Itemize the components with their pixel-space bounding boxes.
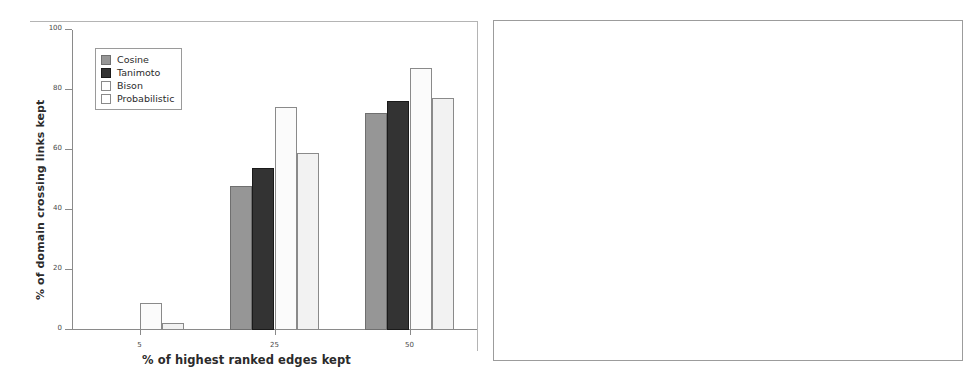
- legend-label-tanimoto: Tanimoto: [117, 67, 160, 79]
- x-tick-label-25: 25: [270, 341, 279, 349]
- y-axis-title-left: % of domain crossing links kept: [34, 100, 47, 300]
- legend-swatch-bison-icon: [101, 81, 111, 91]
- y-tick-label-20: 20: [53, 264, 62, 273]
- legend-label-proba: Probabilistic: [117, 93, 174, 105]
- bar-bison-50: [410, 68, 432, 331]
- y-tick-0: 0: [65, 329, 72, 330]
- bar-proba-50: [432, 98, 454, 331]
- bar-bison-25: [275, 107, 297, 331]
- bar-tanimoto-25: [252, 168, 274, 330]
- chart-panel-right: % of domain crossing links kept % of hig…: [485, 0, 979, 383]
- bar-proba-5: [162, 323, 184, 331]
- x-tick-25: [275, 330, 276, 335]
- figure-root: % of domain crossing links kept % of hig…: [0, 0, 979, 383]
- bar-tanimoto-50: [387, 101, 409, 331]
- y-tick-label-60: 60: [53, 144, 62, 153]
- bar-proba-25: [297, 153, 319, 330]
- y-tick-label-0: 0: [58, 324, 62, 333]
- legend-label-cosine: Cosine: [117, 54, 149, 66]
- bar-cosine-50: [365, 113, 387, 331]
- x-tick-label-50: 50: [405, 341, 414, 349]
- y-tick-20: 20: [65, 269, 72, 270]
- bar-cosine-25: [230, 186, 252, 330]
- panel-left-top-rule: [30, 21, 478, 22]
- legend-row-tanimoto[interactable]: Tanimoto: [101, 66, 174, 79]
- legend-swatch-cosine-icon: [101, 55, 111, 65]
- y-tick-40: 40: [65, 209, 72, 210]
- x-tick-50: [410, 330, 411, 335]
- legend-swatch-tanimoto-icon: [101, 68, 111, 78]
- y-tick-80: 80: [65, 89, 72, 90]
- legend-swatch-proba-icon: [101, 94, 111, 104]
- x-tick-label-5: 5: [137, 341, 141, 349]
- y-tick-label-40: 40: [53, 204, 62, 213]
- y-tick-60: 60: [65, 149, 72, 150]
- legend-label-bison: Bison: [117, 80, 143, 92]
- legend-left[interactable]: CosineTanimotoBisonProbabilistic: [95, 48, 182, 110]
- chart-panel-left: % of domain crossing links kept % of hig…: [0, 0, 485, 383]
- legend-row-bison[interactable]: Bison: [101, 79, 174, 92]
- x-tick-5: [140, 330, 141, 335]
- x-axis-title-left: % of highest ranked edges kept: [142, 353, 351, 367]
- panel-left-right-rule: [477, 21, 478, 351]
- y-tick-100: 100: [65, 29, 72, 30]
- y-tick-label-80: 80: [53, 84, 62, 93]
- legend-row-cosine[interactable]: Cosine: [101, 53, 174, 66]
- y-axis-line-left: [72, 30, 73, 330]
- panel-right-border: [493, 20, 963, 361]
- legend-row-proba[interactable]: Probabilistic: [101, 92, 174, 105]
- bar-bison-5: [140, 303, 162, 330]
- y-tick-label-100: 100: [49, 24, 62, 33]
